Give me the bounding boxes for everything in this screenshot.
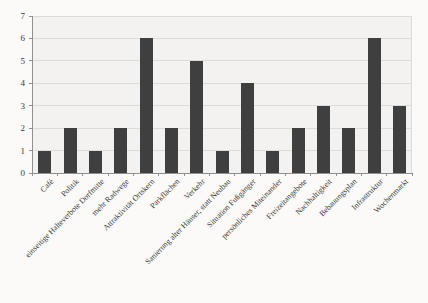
bar	[165, 128, 178, 173]
y-axis-line	[32, 16, 33, 173]
bar	[342, 128, 355, 173]
gridline	[32, 16, 412, 17]
y-axis-tick-label: 5	[5, 56, 25, 66]
bar	[266, 151, 279, 173]
y-axis-tick-label: 2	[5, 123, 25, 133]
x-axis-category-label: Verkehr	[183, 177, 207, 201]
y-axis-tick-label: 3	[5, 101, 25, 111]
gridline	[32, 83, 412, 84]
gridline	[32, 38, 412, 39]
y-axis-tick-label: 4	[5, 78, 25, 88]
bar	[190, 61, 203, 173]
y-axis-tick-label: 0	[5, 168, 25, 178]
bar	[368, 38, 381, 173]
x-axis-category-label: Politik	[59, 177, 80, 198]
y-axis-tick-label: 7	[5, 11, 25, 21]
bar	[292, 128, 305, 173]
x-axis-line	[31, 173, 412, 174]
y-axis-tick-label: 6	[5, 33, 25, 43]
plot-area	[32, 16, 412, 173]
y-axis-tick-label: 1	[5, 146, 25, 156]
x-axis-category-label: Café	[38, 177, 55, 194]
gridline	[32, 60, 412, 61]
gridline	[32, 105, 412, 106]
bar	[216, 151, 229, 173]
bar	[64, 128, 77, 173]
bar	[317, 106, 330, 173]
bar	[114, 128, 127, 173]
bar	[89, 151, 102, 173]
bar	[140, 38, 153, 173]
bar	[393, 106, 406, 173]
bar	[241, 83, 254, 173]
bar	[38, 151, 51, 173]
bar-chart: 01234567 CaféPolitikeinseitige Halteverb…	[0, 0, 428, 303]
plot-right-border	[411, 16, 412, 173]
